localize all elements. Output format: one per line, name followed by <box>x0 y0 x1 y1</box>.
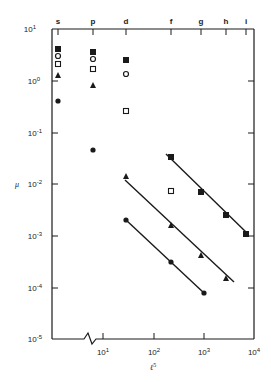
y-tick-labels: 101 100 10-1 10-2 10-3 10-4 10-5 <box>24 24 43 344</box>
xtick-label: 102 <box>148 347 161 357</box>
fit-line-triangle <box>125 180 234 282</box>
ytick-label: 10-5 <box>28 334 43 344</box>
fit-lines <box>125 154 248 293</box>
series-open-circle <box>56 54 129 77</box>
x-tick-labels: 101 102 103 104 <box>97 347 261 357</box>
x-axis-label: ℓ5 <box>150 362 156 372</box>
top-label-g: g <box>199 17 204 26</box>
top-ticks <box>58 29 246 35</box>
plot-frame <box>52 29 254 344</box>
xtick-label: 103 <box>198 347 211 357</box>
y-axis-label: μ <box>14 180 19 189</box>
top-label-s: s <box>56 17 61 26</box>
top-label-h: h <box>224 17 229 26</box>
fit-line-filled-circle <box>126 220 204 293</box>
series-open-square <box>56 62 174 194</box>
chart: s p d f g h i 101 100 10-1 10-2 10-3 10-… <box>0 0 271 382</box>
fit-line-filled-square <box>166 154 248 234</box>
ytick-label: 10-2 <box>28 179 43 189</box>
ytick-label: 10-4 <box>28 283 43 293</box>
ytick-label: 101 <box>24 24 37 34</box>
ytick-label: 100 <box>28 76 41 86</box>
y-ticks <box>52 81 254 288</box>
top-label-f: f <box>170 17 173 26</box>
x-ticks <box>103 333 204 339</box>
ytick-label: 10-3 <box>28 231 43 241</box>
top-label-p: p <box>91 17 96 26</box>
top-label-d: d <box>124 17 129 26</box>
xtick-label: 101 <box>97 347 110 357</box>
ytick-label: 10-1 <box>28 128 43 138</box>
series-filled-circle <box>55 98 206 295</box>
xtick-label: 104 <box>248 347 261 357</box>
top-label-i: i <box>245 17 247 26</box>
top-axis-labels: s p d f g h i <box>56 17 247 26</box>
series-filled-triangle <box>55 72 229 281</box>
series-filled-square <box>55 46 249 237</box>
